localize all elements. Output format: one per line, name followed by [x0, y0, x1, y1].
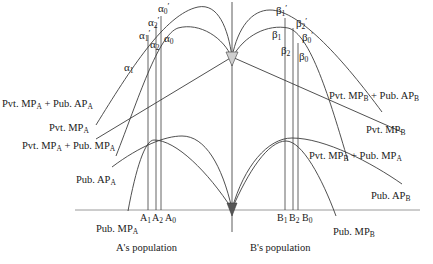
curve-label-pvt-mpa: Pvt. MPA: [49, 123, 89, 134]
greek-label-alpha-0-prime: α0′: [158, 2, 169, 16]
tick-label-b2: B2: [289, 213, 299, 224]
greek-label-beta-2: β2: [281, 45, 290, 58]
greek-label-alpha-1-prime: α1′: [139, 29, 150, 43]
axis-label-a-population: A's population: [116, 243, 177, 254]
greek-label-beta-1: β1: [272, 29, 281, 42]
axis-label-b-population: B's population: [250, 243, 311, 254]
curve-pub-mpa: [128, 140, 232, 211]
curve-label-pvt-mpb-plus-pub-apb: Pvt. MPB + Pub. APB: [329, 91, 419, 102]
curve-label-pub-mpa: Pub. MPA: [96, 224, 138, 235]
diagram-figure: α0′ α2′ α1′ α0 α2 α1 β1′ β2′ β1 β0′ β2 β…: [0, 0, 433, 264]
line-pvt-mpa: [96, 57, 232, 139]
curve-label-pvt-mpb-plus-pub-mpa: Pvt. MPB + Pub. MPA: [309, 151, 402, 162]
tick-label-a0: A0: [165, 213, 176, 224]
tick-label-a1: A1: [140, 213, 151, 224]
greek-label-beta-1-prime: β1′: [276, 4, 287, 18]
greek-label-alpha-2: α2: [150, 39, 160, 52]
tick-label-b1: B1: [277, 213, 287, 224]
greek-label-alpha-0: α0: [164, 33, 174, 46]
greek-label-alpha-1: α1: [124, 62, 134, 75]
curve-label-pub-apa: Pub. APA: [76, 175, 116, 186]
greek-label-beta-0-prime: β0′: [302, 31, 313, 45]
curve-label-pvt-mpa-plus-pub-apa: Pvt. MPA + Pub. APA: [2, 99, 93, 110]
greek-label-beta-2-prime: β2′: [296, 17, 307, 31]
tick-label-a2: A2: [152, 213, 163, 224]
curve-pvt-mpa-plus-pub-apa: [96, 7, 232, 125]
curve-pub-apa: [112, 136, 232, 209]
greek-label-beta-0: β0: [299, 51, 308, 64]
tick-label-b0: B0: [302, 213, 312, 224]
curve-label-pvt-mpa-plus-pub-mpa: Pvt. MPA + Pub. MPA: [22, 141, 115, 152]
curve-label-pub-mpb: Pub. MPB: [333, 227, 375, 238]
curve-label-pvt-mpb: Pvt. MPB: [366, 125, 405, 136]
curve-label-pub-apb: Pub. APB: [371, 191, 410, 202]
